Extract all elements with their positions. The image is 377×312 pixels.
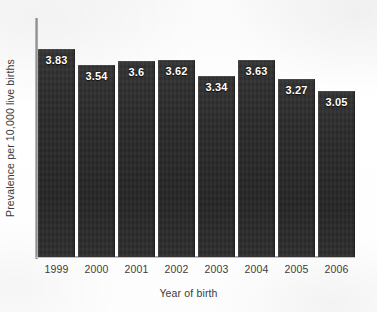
bar-2003: 3.34 [198,76,235,257]
x-tick-label-2006: 2006 [318,263,355,275]
bar-2006: 3.05 [318,91,355,257]
x-tick-label-2002: 2002 [158,263,195,275]
y-axis-title-container: Prevalence per 10,000 live births [0,18,20,257]
x-tick-label-2004: 2004 [238,263,275,275]
bar-2005: 3.27 [278,79,315,257]
bar-chart-figure: 3.833.543.63.623.343.633.273.05 19992000… [0,0,377,312]
x-tick-label-2005: 2005 [278,263,315,275]
bar-value-label-2003: 3.34 [198,81,235,93]
x-axis-title: Year of birth [0,287,377,299]
bar-2004: 3.63 [238,60,275,257]
bar-value-label-2005: 3.27 [278,84,315,96]
bar-1999: 3.83 [38,49,75,257]
x-tick-label-2001: 2001 [118,263,155,275]
y-axis-title: Prevalence per 10,000 live births [4,59,16,217]
bar-2001: 3.6 [118,61,155,257]
bar-value-label-2000: 3.54 [78,70,115,82]
bar-value-label-2002: 3.62 [158,65,195,77]
plot-area: 3.833.543.63.623.343.633.273.05 [35,18,353,257]
bar-value-label-2001: 3.6 [118,66,155,78]
x-axis-tick-labels: 19992000200120022003200420052006 [35,263,355,279]
bar-value-label-1999: 3.83 [38,54,75,66]
bar-2000: 3.54 [78,65,115,257]
x-tick-label-2003: 2003 [198,263,235,275]
bar-value-label-2004: 3.63 [238,65,275,77]
bar-2002: 3.62 [158,60,195,257]
bar-series: 3.833.543.63.623.343.633.273.05 [35,18,353,257]
x-tick-label-2000: 2000 [78,263,115,275]
x-tick-label-1999: 1999 [38,263,75,275]
bar-value-label-2006: 3.05 [318,96,355,108]
